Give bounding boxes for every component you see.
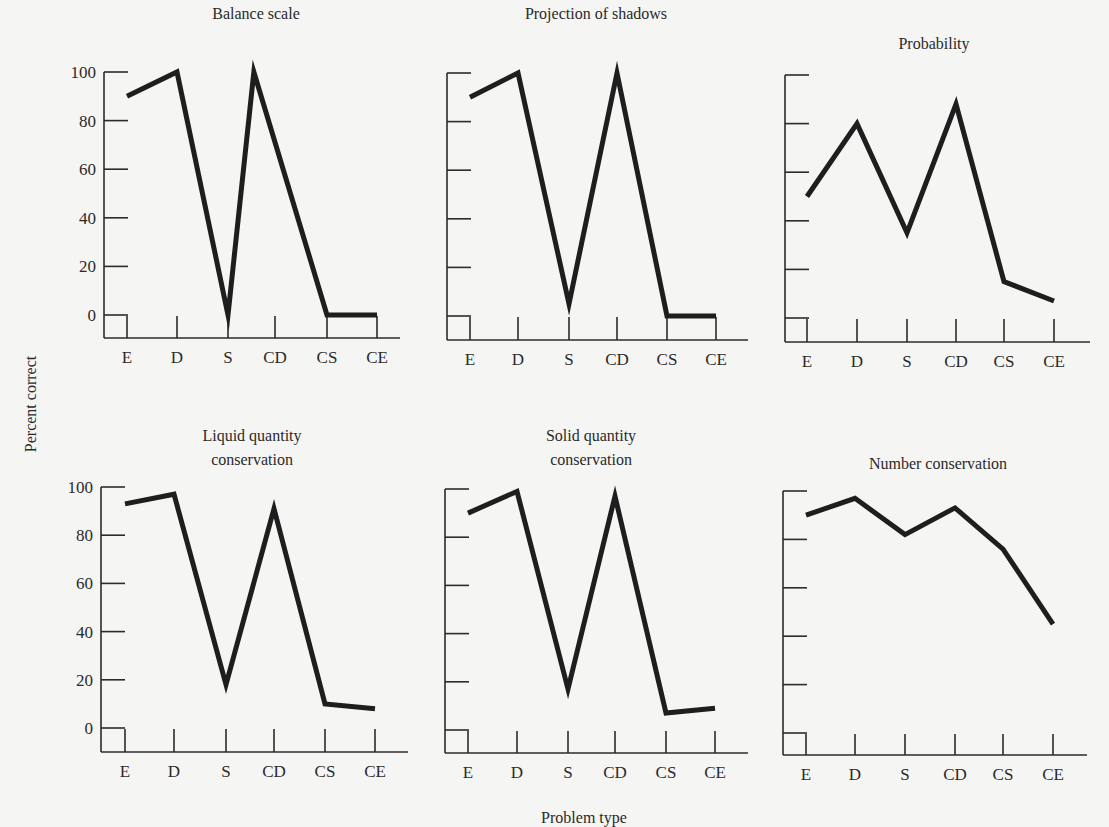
y-tick-label: 80 <box>79 112 96 131</box>
x-tick-label: D <box>171 348 183 367</box>
x-tick-label: D <box>512 350 524 369</box>
y-tick-label: 20 <box>76 671 93 690</box>
data-line <box>806 498 1053 624</box>
y-tick-label: 40 <box>79 209 96 228</box>
x-tick-label: CS <box>657 350 678 369</box>
y-tick-label: 100 <box>68 478 94 497</box>
x-tick-label: E <box>465 350 475 369</box>
x-tick-label: CE <box>364 762 386 781</box>
data-line <box>468 491 715 713</box>
chart-panels: Balance scale020406080100EDSCDCSCEProjec… <box>68 5 1091 784</box>
x-tick-label: CS <box>993 765 1014 784</box>
x-tick-label: D <box>849 765 861 784</box>
x-tick-label: CE <box>1043 352 1065 371</box>
y-tick-label: 20 <box>79 257 96 276</box>
chart-title: conservation <box>211 451 293 468</box>
x-tick-label: D <box>168 762 180 781</box>
chart-balance-scale: Balance scale020406080100EDSCDCSCE <box>71 5 401 367</box>
x-tick-label: S <box>900 765 909 784</box>
x-tick-label: CS <box>317 348 338 367</box>
x-tick-label: CD <box>944 352 968 371</box>
figure: Balance scale020406080100EDSCDCSCEProjec… <box>0 0 1109 827</box>
x-tick-label: S <box>902 352 911 371</box>
x-tick-label: CE <box>704 763 726 782</box>
chart-projection-of-shadows: Projection of shadowsEDSCDCSCE <box>447 5 748 369</box>
x-tick-label: S <box>223 348 232 367</box>
y-tick-label: 0 <box>88 306 97 325</box>
x-tick-label: E <box>801 765 811 784</box>
x-tick-label: CS <box>656 763 677 782</box>
chart-title: conservation <box>550 451 632 468</box>
x-tick-label: CE <box>705 350 727 369</box>
y-tick-label: 100 <box>71 63 97 82</box>
x-tick-label: CD <box>262 762 286 781</box>
data-line <box>127 72 377 315</box>
y-axis-title: Percent correct <box>22 355 39 452</box>
chart-probability: ProbabilityEDSCDCSCE <box>785 35 1090 371</box>
chart-title: Projection of shadows <box>525 5 667 23</box>
x-tick-label: CE <box>366 348 388 367</box>
chart-title: Number conservation <box>869 455 1007 472</box>
x-tick-label: S <box>564 350 573 369</box>
y-tick-label: 60 <box>79 160 96 179</box>
x-tick-label: D <box>851 352 863 371</box>
data-line <box>125 494 375 709</box>
x-tick-label: CS <box>994 352 1015 371</box>
chart-solid-quantity-conservation: Solid quantityconservationEDSCDCSCE <box>445 427 748 782</box>
x-tick-label: CD <box>263 348 287 367</box>
data-line <box>807 104 1054 301</box>
y-tick-label: 40 <box>76 623 93 642</box>
x-tick-label: E <box>463 763 473 782</box>
chart-title: Probability <box>898 35 969 53</box>
x-axis-title: Problem type <box>541 809 627 827</box>
y-tick-label: 80 <box>76 526 93 545</box>
x-tick-label: CD <box>603 763 627 782</box>
x-tick-label: CS <box>315 762 336 781</box>
chart-title: Liquid quantity <box>202 427 301 445</box>
x-tick-label: E <box>120 762 130 781</box>
chart-liquid-quantity-conservation: Liquid quantityconservation020406080100E… <box>68 427 409 781</box>
y-tick-label: 60 <box>76 574 93 593</box>
data-line <box>470 73 716 316</box>
small-multiples-line-charts: Balance scale020406080100EDSCDCSCEProjec… <box>0 0 1109 827</box>
x-tick-label: E <box>122 348 132 367</box>
chart-title: Balance scale <box>212 5 300 22</box>
x-tick-label: D <box>511 763 523 782</box>
x-tick-label: CD <box>943 765 967 784</box>
x-tick-label: S <box>563 763 572 782</box>
x-tick-label: S <box>221 762 230 781</box>
y-tick-label: 0 <box>85 719 94 738</box>
x-tick-label: CD <box>605 350 629 369</box>
x-tick-label: CE <box>1042 765 1064 784</box>
x-tick-label: E <box>802 352 812 371</box>
chart-title: Solid quantity <box>546 427 636 445</box>
chart-number-conservation: Number conservationEDSCDCSCE <box>783 455 1087 784</box>
